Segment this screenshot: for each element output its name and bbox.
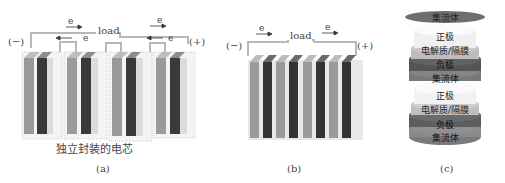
layer-label-anode: 负极 <box>395 58 495 71</box>
layer-label-current-collector: 集流体 <box>395 72 495 85</box>
layer-label-cathode: 正极 <box>395 30 495 43</box>
layer-label-electrolyte-separator: 电解质/隔膜 <box>395 44 495 57</box>
electron-label: e <box>83 33 88 43</box>
panel-a-caption: (a) <box>96 163 110 174</box>
electron-label: e <box>325 22 330 32</box>
panel-c-caption: (c) <box>440 163 453 174</box>
negative-terminal-label-b: (−) <box>226 40 242 51</box>
electron-label: e <box>68 16 73 26</box>
battery-block <box>248 55 363 140</box>
load-label-a: load <box>98 25 120 36</box>
load-label-b: load <box>290 30 312 41</box>
cell-caption: 独立封装的电芯 <box>56 140 133 156</box>
layer-label-anode: 负极 <box>395 118 495 131</box>
negative-terminal-label-a: (−) <box>8 36 24 47</box>
electron-label: e <box>168 33 173 43</box>
positive-terminal-label-a: (+) <box>189 36 205 47</box>
layer-label-current-collector: 集流体 <box>395 11 495 24</box>
electron-label: e <box>157 15 162 25</box>
load-wire-b <box>248 40 356 56</box>
positive-terminal-label-b: (+) <box>357 40 373 51</box>
layer-label-electrolyte-separator: 电解质/隔膜 <box>395 103 495 116</box>
layer-label-current-collector: 集流体 <box>395 131 495 144</box>
electron-label: e <box>259 23 264 33</box>
panel-b-caption: (b) <box>287 163 301 174</box>
layer-label-cathode: 正极 <box>395 89 495 102</box>
